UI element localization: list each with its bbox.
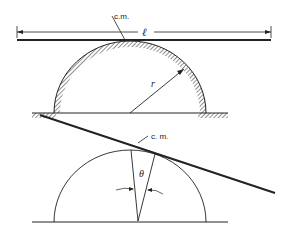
radius-label: r <box>151 78 155 89</box>
radius-vertical <box>131 150 138 221</box>
half-cylinder-shell <box>54 41 206 113</box>
length-dimension: ℓ <box>17 26 271 38</box>
ground-hatch-right <box>198 113 228 118</box>
arrow-left-icon <box>17 30 23 34</box>
diagram-canvas: ℓ c.m. r c. m. <box>0 0 288 233</box>
angle-arrowhead-right-icon <box>147 188 152 192</box>
top-figure: ℓ c.m. r <box>17 12 271 118</box>
bottom-figure: c. m. θ <box>32 115 275 222</box>
half-cylinder-outline <box>54 41 206 113</box>
cm-label-bottom: c. m. <box>151 132 168 141</box>
arrow-right-icon <box>265 30 271 34</box>
length-label: ℓ <box>142 26 147 38</box>
radius-line <box>130 69 184 113</box>
rod-tilted <box>40 115 275 193</box>
cm-label-top: c.m. <box>114 12 129 21</box>
angle-arrowhead-left-icon <box>129 187 134 191</box>
radius-tilted <box>138 154 155 221</box>
semicircle <box>54 150 206 222</box>
cm-leader-line-bottom <box>138 136 148 143</box>
theta-label: θ <box>139 168 144 179</box>
